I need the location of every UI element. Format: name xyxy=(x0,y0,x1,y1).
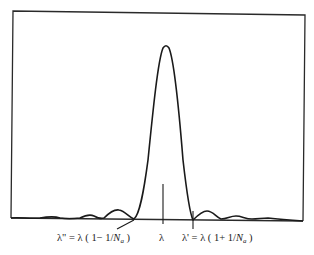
left-minimum-leader xyxy=(117,220,134,229)
plot-frame xyxy=(11,11,305,221)
left-minimum-label: λ" = λ ( 1− 1/Na ) xyxy=(57,232,131,245)
right-minimum-label: λ' = λ ( 1+ 1/Na ) xyxy=(182,232,253,245)
intensity-curve xyxy=(11,46,303,221)
center-wavelength-label: λ xyxy=(159,232,165,243)
diffraction-pattern-diagram: λ" = λ ( 1− 1/Na ) λ λ' = λ ( 1+ 1/Na ) xyxy=(0,0,314,255)
